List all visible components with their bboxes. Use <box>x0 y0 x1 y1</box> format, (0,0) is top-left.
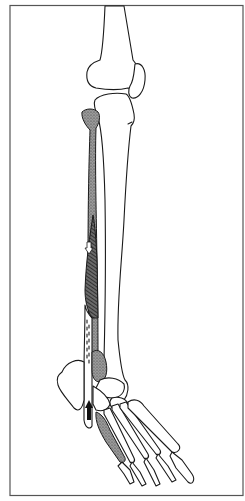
leg-skeleton-illustration <box>0 0 245 501</box>
calcaneus <box>57 360 84 409</box>
toe-3 <box>144 458 160 486</box>
